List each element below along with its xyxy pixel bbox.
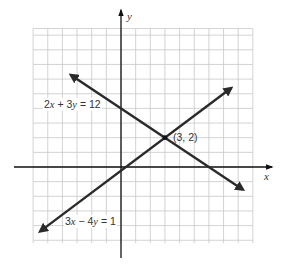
- line-2x-plus-3y-eq-12: [71, 75, 242, 189]
- coordinate-plane: x y: [0, 0, 285, 268]
- intersection-point: [163, 135, 168, 140]
- x-axis-label: x: [263, 170, 269, 182]
- label-line1: 2x + 3y = 12: [43, 98, 102, 111]
- intersection-label: (3, 2): [172, 131, 199, 143]
- y-axis-label: y: [126, 10, 132, 22]
- label-line2: 3x − 4y = 1: [64, 215, 117, 228]
